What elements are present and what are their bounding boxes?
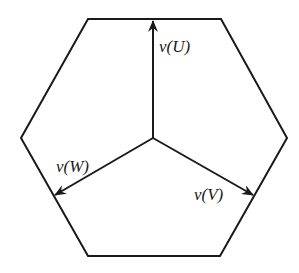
- vector-u-label: v(U): [159, 37, 190, 56]
- vector-w-label: v(W): [56, 157, 89, 176]
- vector-v-label: v(V): [194, 185, 224, 204]
- space-vector-diagram: v(U) v(V) v(W): [0, 0, 299, 273]
